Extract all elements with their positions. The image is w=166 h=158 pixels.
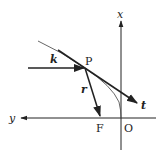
y-axis-label: y [8,112,16,125]
x-axis-label: x [117,8,124,21]
vector-t-label: t [141,99,146,112]
vector-r-label: r [81,83,88,96]
vector-r [85,68,100,116]
tangent-vector-t [58,50,137,103]
origin-o-label: O [124,122,133,135]
diagram: x y t k r P F O [0,0,166,158]
point-p-label: P [85,55,93,68]
vector-k-label: k [50,53,58,66]
point-f-label: F [96,122,104,135]
